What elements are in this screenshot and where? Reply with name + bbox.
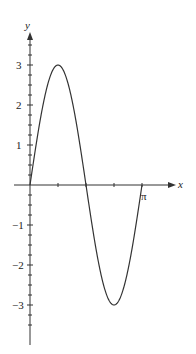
y-tick-label-1: 1 [16,140,22,151]
x-tick-label-pi: π [141,191,147,202]
x-axis-arrow [168,182,176,188]
y-axis-label: y [25,20,30,31]
y-tick-label-2: 2 [16,100,22,111]
x-axis-label: x [178,179,183,190]
y-tick-label-neg1: −1 [12,220,24,231]
y-tick-label-neg2: −2 [12,260,24,271]
y-tick-label-neg3: −3 [12,300,24,311]
y-tick-label-3: 3 [16,60,22,71]
y-axis-arrow [27,32,33,40]
plot-canvas [0,0,196,354]
